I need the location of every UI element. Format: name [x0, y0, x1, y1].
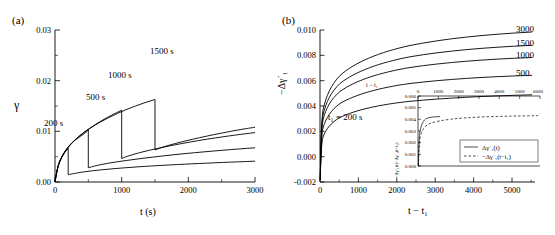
- panel-b-xtick-4: 4000: [465, 185, 482, 195]
- panel-a-xtick-1: 1000: [113, 185, 130, 195]
- panel-b-xtick-0: 0: [318, 185, 322, 195]
- panel-a-annotation-1000: 1000 s: [108, 70, 132, 80]
- panel-a-xlabel: t (s): [140, 206, 156, 217]
- inset-legend-label-dashed: −Δγ˙₁(t−t₁): [482, 153, 511, 160]
- inset-xtick-2: 2000: [454, 89, 465, 94]
- panel-b-curve-label-500: 500: [516, 68, 530, 78]
- panel-a-ytick-0: 0.00: [36, 177, 51, 187]
- panel-b-ytick-2: 0.002: [297, 126, 316, 136]
- panel-a-annotation-500: 500 s: [86, 92, 105, 102]
- panel-b-ylabel: −Δγ˙₁: [276, 72, 287, 95]
- inset-xtick-4: 4000: [494, 89, 505, 94]
- inset-xlabel: t − t₁: [366, 82, 378, 88]
- panel-a-letter: (a): [12, 14, 24, 26]
- panel-b-t1-label: t₁ = 200 s: [328, 112, 362, 122]
- figure-root: (a): [0, 0, 555, 235]
- panel-b-ytick-0: -0.002: [294, 177, 316, 187]
- panel-a-xtick-2: 2000: [180, 185, 197, 195]
- inset-curve-dashed: [418, 116, 538, 166]
- inset-xtick-3: 3000: [474, 89, 485, 94]
- panel-b-letter: (b): [282, 14, 295, 26]
- inset-ylabel: −Δγ˙₁(t)−Δγ˙₁(t−t₁): [394, 142, 399, 178]
- panel-b: (b): [270, 0, 555, 235]
- panel-a-annotation-200: 200 s: [44, 118, 63, 128]
- panel-a: (a): [0, 0, 270, 235]
- inset-xtick-6: 6000: [533, 89, 544, 94]
- inset-ytick-0: 0.000: [405, 164, 417, 169]
- panel-b-ytick-3: 0.004: [297, 101, 317, 111]
- panel-a-ylabel: γ: [14, 98, 19, 113]
- inset-ytick-6: 0.006: [405, 94, 417, 99]
- inset-ytick-5: 0.005: [405, 105, 417, 110]
- inset-ytick-4: 0.004: [405, 117, 417, 122]
- panel-b-xlabel: t − t₁: [408, 205, 428, 216]
- panel-b-curve-label-1000: 1000: [516, 50, 534, 60]
- panel-a-xtick-0: 0: [53, 185, 57, 195]
- panel-b-ytick-1: 0.000: [297, 152, 316, 162]
- panel-a-plot: 0 1000 2000 3000 0.00 0.01 0.02 0.03: [0, 0, 270, 235]
- panel-a-xtick-3: 3000: [247, 185, 264, 195]
- inset-xtick-5: 5000: [515, 89, 526, 94]
- panel-b-ytick-5: 0.008: [297, 50, 316, 60]
- panel-b-xtick-2: 2000: [388, 185, 405, 195]
- inset-legend-label-solid: Δγ˙₁(t): [482, 144, 500, 151]
- inset-ytick-1: 0.001: [405, 152, 417, 157]
- panel-b-curve-label-3000: 3000: [516, 24, 534, 34]
- inset-xtick-0: 0: [417, 89, 420, 94]
- panel-b-ytick-6: 0.010: [297, 25, 316, 35]
- panel-b-curve-label-1500: 1500: [516, 38, 534, 48]
- inset-ytick-3: 0.003: [405, 129, 417, 134]
- panel-b-xtick-5: 5000: [504, 185, 521, 195]
- inset-ytick-2: 0.002: [405, 140, 417, 145]
- panel-a-ytick-3: 0.03: [36, 25, 51, 35]
- panel-b-inset: 0 1000 2000 3000 4000 5000 6000 0.000 0.…: [388, 88, 548, 183]
- curve-a-1500: [55, 100, 255, 183]
- panel-b-ytick-4: 0.006: [297, 76, 316, 86]
- curve-a-200: [55, 149, 255, 183]
- panel-a-annotation-1500: 1500 s: [150, 46, 174, 56]
- panel-b-xtick-3: 3000: [427, 185, 444, 195]
- panel-b-xtick-1: 1000: [350, 185, 367, 195]
- panel-a-ytick-2: 0.02: [36, 76, 51, 86]
- inset-xtick-1: 1000: [433, 89, 444, 94]
